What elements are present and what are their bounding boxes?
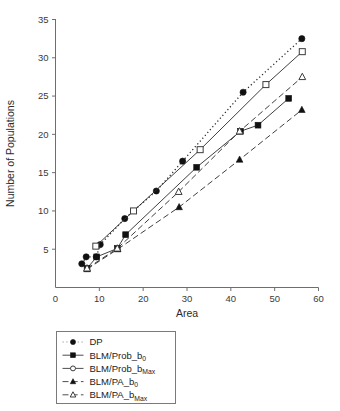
series-line — [87, 77, 302, 268]
marker-open-square — [263, 82, 269, 88]
series-blm-prob-bmax — [93, 49, 305, 249]
marker-filled-triangle — [299, 106, 306, 112]
marker-filled-square — [71, 353, 76, 358]
marker-filled-circle — [153, 188, 159, 194]
chart-legend: DPBLM/Prob_b0BLM/Prob_bMaxBLM/PA_b0BLM/P… — [57, 332, 176, 404]
marker-filled-square — [286, 95, 292, 101]
marker-open-triangle — [299, 73, 306, 79]
legend-item-blm-prob-bmax[interactable]: BLM/Prob_bMax — [63, 363, 156, 375]
marker-filled-square — [255, 122, 261, 128]
legend-label: BLM/Prob_bMax — [90, 363, 156, 375]
line-chart-plot: 51015202530350102030405060 AreaNumber of… — [0, 0, 340, 411]
legend-label: BLM/Prob_b0 — [90, 350, 147, 362]
marker-filled-square — [194, 164, 200, 170]
y-tick-label: 10 — [38, 205, 49, 216]
x-tick-label: 10 — [94, 293, 105, 304]
x-axis-title: Area — [176, 307, 198, 319]
series-blm-pa-bmax — [84, 73, 306, 271]
marker-filled-square — [123, 232, 129, 238]
marker-open-square — [93, 243, 99, 249]
x-tick-label: 60 — [313, 293, 324, 304]
marker-filled-triangle — [236, 156, 243, 162]
marker-open-square — [197, 147, 203, 153]
series-line — [82, 39, 302, 264]
legend-label: BLM/PA_bMax — [90, 389, 148, 401]
y-tick-label: 20 — [38, 129, 49, 140]
x-tick-label: 0 — [53, 293, 58, 304]
y-tick-label: 25 — [38, 90, 49, 101]
series-dp — [79, 36, 305, 267]
x-tick-label: 20 — [138, 293, 149, 304]
marker-filled-triangle — [176, 204, 183, 210]
y-tick-label: 30 — [38, 52, 49, 63]
legend-item-blm-pa-bmax[interactable]: BLM/PA_bMax — [63, 389, 148, 401]
axis-labels-group: AreaNumber of Populations — [4, 100, 198, 318]
marker-filled-circle — [83, 254, 89, 260]
marker-open-square — [299, 49, 305, 55]
legend-label: DP — [90, 336, 103, 347]
legend-item-dp[interactable]: DP — [63, 336, 103, 347]
legend-item-blm-pa-b0[interactable]: BLM/PA_b0 — [63, 376, 139, 388]
y-tick-label: 15 — [38, 167, 49, 178]
marker-open-triangle — [70, 392, 76, 397]
marker-filled-circle — [240, 89, 246, 95]
y-tick-label: 5 — [43, 244, 48, 255]
marker-filled-circle — [70, 339, 75, 344]
marker-filled-circle — [299, 36, 305, 42]
x-tick-label: 40 — [226, 293, 237, 304]
x-tick-label: 50 — [269, 293, 280, 304]
series-blm-prob-b0 — [84, 95, 291, 271]
x-tick-label: 30 — [182, 293, 193, 304]
y-tick-label: 35 — [38, 14, 49, 25]
chart-figure: 51015202530350102030405060 AreaNumber of… — [0, 0, 340, 411]
marker-open-square — [131, 208, 137, 214]
y-axis-title: Number of Populations — [4, 100, 16, 207]
legend-item-blm-prob-b0[interactable]: BLM/Prob_b0 — [63, 350, 147, 362]
legend-label: BLM/PA_b0 — [90, 376, 139, 388]
data-series-group — [79, 36, 306, 272]
marker-open-circle — [71, 366, 76, 371]
marker-filled-square — [94, 254, 100, 260]
